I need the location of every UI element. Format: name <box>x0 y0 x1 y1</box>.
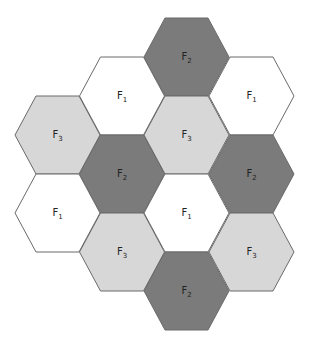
cell-label-subscript: 2 <box>252 174 256 182</box>
cell-label-subscript: 2 <box>187 57 191 65</box>
cell-label-subscript: 1 <box>252 96 256 104</box>
cell-label-subscript: 3 <box>123 252 127 260</box>
hex-cell-diagram: F2F1F1F3F3F2F2F1F1F3F3F2 <box>0 0 309 340</box>
cell-label-subscript: 3 <box>58 135 62 143</box>
cell-label-subscript: 3 <box>252 252 256 260</box>
cell-label-subscript: 3 <box>187 135 191 143</box>
cell-label-subscript: 1 <box>187 213 191 221</box>
cell-label-subscript: 1 <box>58 213 62 221</box>
cell-label-subscript: 2 <box>187 291 191 299</box>
cell-label-subscript: 1 <box>123 96 127 104</box>
cell-label-subscript: 2 <box>123 174 127 182</box>
